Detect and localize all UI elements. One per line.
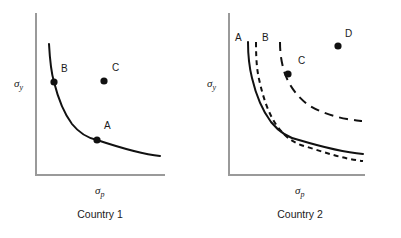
plot-country-1 bbox=[0, 0, 200, 200]
curve-frontier-c-country-2 bbox=[280, 42, 362, 121]
point-label-a-country-1: A bbox=[104, 121, 111, 131]
caption-country-1: Country 1 bbox=[0, 208, 200, 220]
point-label-b-country-1: B bbox=[61, 64, 68, 74]
y-axis-label-country-1: σy bbox=[14, 78, 23, 93]
panel-country-1: B C A σy σp Country 1 bbox=[0, 0, 200, 238]
datapoint-c-country-1 bbox=[100, 77, 107, 84]
curve-frontier-a-country-2 bbox=[248, 42, 363, 154]
x-axis-subscript-country-1: p bbox=[100, 190, 104, 199]
y-axis-subscript-country-1: y bbox=[19, 83, 23, 92]
y-axis-subscript-country-2: y bbox=[212, 83, 216, 92]
axes-country-1 bbox=[36, 13, 165, 175]
x-axis-label-country-2: σp bbox=[295, 185, 304, 200]
x-axis-subscript-country-2: p bbox=[300, 190, 304, 199]
datapoint-b-country-1 bbox=[50, 78, 57, 85]
plot-country-2 bbox=[195, 0, 395, 200]
x-axis-label-country-1: σp bbox=[95, 185, 104, 200]
datapoint-c-country-2 bbox=[284, 70, 291, 77]
datapoint-a-country-1 bbox=[93, 136, 100, 143]
caption-country-2: Country 2 bbox=[200, 208, 400, 220]
point-label-c-country-1: C bbox=[112, 63, 119, 73]
datapoint-d-country-2 bbox=[334, 42, 341, 49]
curve-label-b-country-2: B bbox=[262, 33, 269, 43]
curve-label-a-country-2: A bbox=[235, 33, 242, 43]
y-axis-label-country-2: σy bbox=[207, 78, 216, 93]
curve-frontier-country-1 bbox=[49, 44, 160, 156]
two-panel-figure: B C A σy σp Country 1 A B C D bbox=[0, 0, 401, 238]
point-label-d-country-2: D bbox=[345, 29, 352, 39]
panel-country-2: A B C D σy σp Country 2 bbox=[195, 0, 395, 238]
point-label-c-country-2: C bbox=[298, 56, 305, 66]
